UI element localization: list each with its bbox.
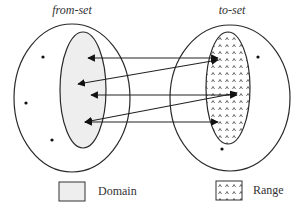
domain-ellipse [60,32,106,148]
set-element-point [24,101,27,104]
set-element-point [50,138,53,141]
to-set-group [170,25,290,171]
set-element-point [41,55,44,58]
range-legend-swatch [216,181,242,200]
set-element-point [220,147,223,150]
from-set-group [14,24,130,172]
range-legend-label: Range [253,183,284,198]
to-set-label: to-set [219,3,246,18]
domain-legend-swatch [59,182,85,201]
function-mapping-diagram [0,0,298,212]
from-set-label: from-set [52,3,92,18]
legend [59,181,242,201]
range-ellipse [206,32,250,144]
domain-legend-label: Domain [98,184,137,199]
set-element-point [256,55,259,58]
from-set-points [24,55,53,141]
